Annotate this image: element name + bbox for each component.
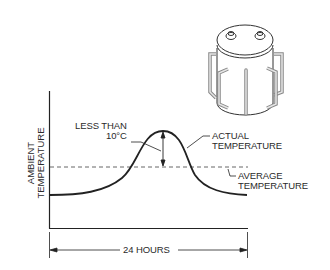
y-axis-label: AMBIENT TEMPERATURE <box>26 127 46 198</box>
capacitor-can-icon <box>210 25 282 115</box>
annotation-actual: ACTUAL TEMPERATURE <box>212 131 282 151</box>
difference-arrow <box>161 132 165 166</box>
annotation-average-line2: TEMPERATURE <box>238 181 308 191</box>
leader-line-difference <box>131 142 161 151</box>
annotation-less-than-line2: 10°C <box>74 131 127 141</box>
x-dimension-label: 24 HOURS <box>123 245 170 255</box>
annotation-average: AVERAGE TEMPERATURE <box>238 171 308 191</box>
axes <box>49 91 248 229</box>
annotation-less-than: LESS THAN 10°C <box>74 121 127 141</box>
y-axis-label-line2: TEMPERATURE <box>36 127 46 198</box>
leader-line-average <box>228 169 236 176</box>
leader-line-actual <box>187 136 210 148</box>
annotation-actual-line2: TEMPERATURE <box>212 141 282 151</box>
